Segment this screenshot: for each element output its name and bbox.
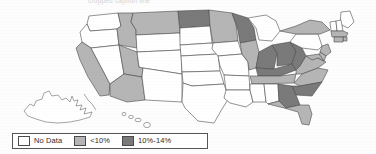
legend-swatch-no-data	[18, 136, 30, 146]
state-NM[interactable]	[142, 68, 182, 102]
state-IN[interactable]	[256, 45, 277, 69]
state-AL[interactable]	[264, 84, 279, 104]
state-OK[interactable]	[182, 71, 224, 86]
choropleth-map	[0, 4, 376, 130]
state-RI[interactable]	[343, 37, 347, 41]
state-LA[interactable]	[224, 90, 253, 107]
state-CT[interactable]	[334, 37, 343, 42]
state-MA[interactable]	[331, 31, 348, 37]
state-ND[interactable]	[178, 10, 210, 28]
legend-label-10-to-14: 10%-14%	[138, 137, 171, 145]
legend-label-under-10: <10%	[90, 137, 110, 145]
state-AK[interactable]	[24, 91, 92, 123]
us-map-svg	[0, 4, 376, 130]
legend-swatch-10-to-14	[122, 136, 134, 146]
legend-item-no-data[interactable]: No Data	[13, 134, 62, 148]
state-WA[interactable]	[87, 13, 121, 31]
alaska-panhandle	[84, 94, 96, 110]
state-WY[interactable]	[136, 33, 181, 52]
legend-item-10-to-14[interactable]: 10%-14%	[110, 134, 171, 148]
state-MT[interactable]	[131, 11, 180, 35]
state-AR[interactable]	[224, 75, 250, 90]
state-KS[interactable]	[181, 54, 220, 72]
map-figure: cropped caption line	[0, 0, 376, 154]
map-legend: No Data <10% 10%-14%	[12, 133, 208, 149]
legend-item-under-10[interactable]: <10%	[62, 134, 110, 148]
state-MS[interactable]	[250, 84, 266, 102]
state-TX[interactable]	[182, 83, 229, 123]
state-IA[interactable]	[212, 41, 242, 56]
state-NY[interactable]	[280, 20, 330, 34]
state-HI-hawaii[interactable]	[144, 122, 151, 127]
legend-swatch-under-10	[74, 136, 86, 146]
state-HI-kauai[interactable]	[122, 112, 126, 115]
state-HI-maui[interactable]	[135, 118, 141, 122]
state-HI-oahu[interactable]	[129, 115, 134, 118]
state-SD[interactable]	[180, 26, 212, 45]
legend-label-no-data: No Data	[34, 137, 62, 145]
